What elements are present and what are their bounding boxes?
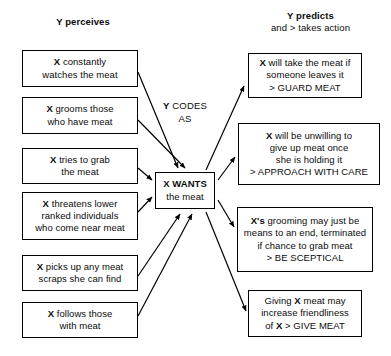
right-box-4-line3: of X > GIVE MEAT [251, 320, 359, 332]
left-box-4-line1: X threatens lower [25, 198, 135, 210]
arrow-right-3 [218, 200, 234, 227]
left-box-1-line2: watches the meat [25, 69, 135, 81]
arrow-right-2 [218, 157, 235, 180]
right-box-1-line1: X will take the meat if [251, 57, 359, 69]
right-box-3-line3: if chance to grab meat [240, 240, 370, 252]
right-box-2-line2: give up meat once [241, 142, 377, 154]
arrow-left-3 [138, 168, 152, 180]
center-box-line2: the meat [158, 191, 212, 204]
left-box-1[interactable]: X constantly watches the meat [22, 50, 138, 87]
left-box-4[interactable]: X threatens lower ranked individuals who… [22, 192, 138, 240]
right-header-line1: Y predicts [238, 10, 383, 22]
right-box-1-guard-meat[interactable]: X will take the meat if someone leaves i… [248, 53, 362, 98]
left-box-6-line2: with meat [25, 320, 135, 332]
arrow-left-5 [138, 214, 180, 276]
left-box-6[interactable]: X follows those with meat [22, 302, 138, 338]
codes-as-line2: AS [145, 113, 225, 126]
right-column-header: Y predicts and > takes action [238, 10, 383, 34]
right-box-1-line3: > GUARD MEAT [251, 82, 359, 94]
left-header-actor: Y perceives [56, 16, 110, 27]
left-box-5-line2: scraps she can find [25, 273, 135, 285]
right-box-4-line2: increase friendliness [251, 307, 359, 319]
left-box-2-line1: X grooms those [25, 103, 135, 115]
right-box-2-line4: > APPROACH WITH CARE [241, 166, 377, 178]
center-box-line1: X WANTS [158, 178, 212, 191]
left-box-2[interactable]: X grooms those who have meat [22, 97, 138, 134]
left-box-4-line2: ranked individuals [25, 210, 135, 222]
right-box-3-line4: > BE SCEPTICAL [240, 252, 370, 264]
left-box-3-line1: X tries to grab [25, 154, 135, 166]
left-box-6-line1: X follows those [25, 308, 135, 320]
right-box-2-line3: she is holding it [241, 154, 377, 166]
right-box-3-line2: means to an end, terminated [240, 227, 370, 239]
right-header-line2: and > takes action [238, 22, 383, 34]
arrow-left-4 [138, 197, 152, 212]
codes-as-label: Y CODES AS [145, 100, 225, 125]
arrow-left-6 [138, 214, 192, 316]
right-box-1-line2: someone leaves it [251, 69, 359, 81]
left-box-5[interactable]: X picks up any meat scraps she can find [22, 255, 138, 291]
right-box-3-line1: X's grooming may just be [240, 215, 370, 227]
right-box-2-approach-with-care[interactable]: X will be unwilling to give up meat once… [238, 123, 380, 185]
right-box-2-line1: X will be unwilling to [241, 130, 377, 142]
codes-as-line1: Y CODES [145, 100, 225, 113]
left-box-3-line2: the meat [25, 166, 135, 178]
left-box-1-line1: X constantly [25, 56, 135, 68]
left-box-5-line1: X picks up any meat [25, 261, 135, 273]
left-box-3[interactable]: X tries to grab the meat [22, 148, 138, 184]
center-box-x-wants-the-meat[interactable]: X WANTS the meat [155, 172, 215, 209]
left-box-2-line2: who have meat [25, 116, 135, 128]
arrow-left-2 [138, 120, 185, 168]
left-box-4-line3: who come near meat [25, 222, 135, 234]
diagram-canvas: Y perceives Y predicts and > takes actio… [0, 0, 391, 356]
right-box-4-line1: Giving X meat may [251, 295, 359, 307]
right-box-4-give-meat[interactable]: Giving X meat may increase friendliness … [248, 290, 362, 337]
left-column-header: Y perceives [18, 16, 148, 28]
right-box-3-be-sceptical[interactable]: X's grooming may just be means to an end… [237, 207, 373, 272]
